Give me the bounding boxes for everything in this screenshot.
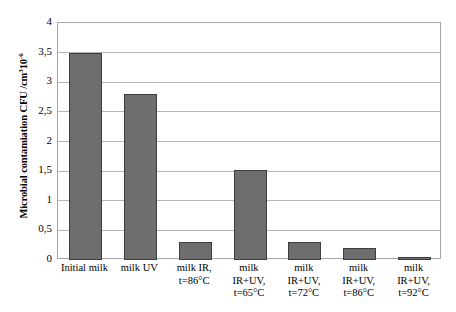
bar-series: [58, 23, 440, 258]
x-axis-tick-label-line: milk: [383, 262, 445, 275]
y-axis-title-mid: 10: [18, 59, 29, 69]
x-axis-tick-label-line: t=72°C: [273, 287, 335, 300]
x-axis-tick-label-line: IR+UV,: [273, 275, 335, 288]
x-axis-tick-label-line: IR+UV,: [328, 275, 390, 288]
bar: [234, 170, 267, 260]
x-axis-tick-label: Initial milk: [53, 262, 115, 275]
x-axis-tick-label: milk UV: [108, 262, 170, 275]
y-axis-title-main: Microbial contamiation CFU /cm: [18, 73, 29, 219]
y-axis-title: Microbial contamiation CFU /cm310-6: [16, 16, 32, 256]
x-axis-tick-label-line: t=92°C: [383, 287, 445, 300]
x-axis-tick-label: milkIR+UV,t=92°C: [383, 262, 445, 300]
bar: [343, 248, 376, 260]
x-axis-tick-label: milkIR+UV,t=86°C: [328, 262, 390, 300]
bar: [179, 242, 212, 260]
x-axis-tick-label-line: milk: [218, 262, 280, 275]
x-axis-tick-label-line: IR+UV,: [383, 275, 445, 288]
x-axis-tick-label-line: milk: [328, 262, 390, 275]
x-axis-tick-label-line: milk: [273, 262, 335, 275]
x-axis-tick-label: milk IR,t=86°C: [163, 262, 225, 287]
x-axis-tick-label-line: t=65°C: [218, 287, 280, 300]
x-axis-tick-label-line: t=86°C: [328, 287, 390, 300]
x-axis-tick-label: milkIR+UV,t=65°C: [218, 262, 280, 300]
bar: [398, 257, 431, 260]
x-axis-tick-label-line: Initial milk: [53, 262, 115, 275]
x-axis-tick-label-line: milk IR,: [163, 262, 225, 275]
bar-chart: Microbial contamiation CFU /cm310-6 00,5…: [0, 0, 456, 312]
y-axis-title-sup-cm: 3: [17, 69, 25, 72]
bar: [124, 94, 157, 260]
x-axis-tick-label-line: t=86°C: [163, 275, 225, 288]
bar: [69, 53, 102, 260]
y-axis-title-sup-exp: -6: [17, 53, 25, 59]
plot-area: [57, 22, 441, 259]
bar: [288, 242, 321, 260]
x-axis-tick-labels: Initial milkmilk UVmilk IR,t=86°CmilkIR+…: [0, 262, 456, 312]
x-axis-tick-label-line: milk UV: [108, 262, 170, 275]
x-axis-tick-label-line: IR+UV,: [218, 275, 280, 288]
x-axis-tick-label: milkIR+UV,t=72°C: [273, 262, 335, 300]
